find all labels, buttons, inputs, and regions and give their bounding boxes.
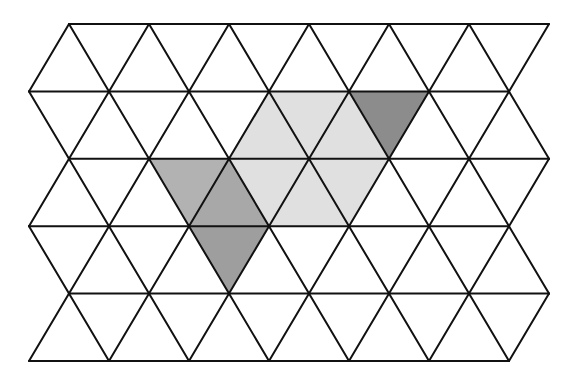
diagonal-line [189, 24, 229, 91]
diagonal-line [69, 24, 109, 91]
diagonal-line [389, 226, 429, 293]
diagonal-line [109, 91, 149, 158]
diagonal-line [309, 24, 349, 91]
diagonal-line [109, 294, 149, 361]
diagonal-line [69, 91, 109, 158]
diagonal-line [469, 91, 509, 158]
diagonal-line [269, 24, 309, 91]
diagonal-line [69, 159, 109, 226]
medium-triangle-left-lower [189, 226, 269, 293]
diagonal-line [349, 24, 389, 91]
diagonal-line [389, 294, 429, 361]
diagonal-line [29, 91, 69, 158]
grid-canvas [0, 0, 579, 381]
diagonal-line [229, 294, 269, 361]
diagonal-line [429, 226, 469, 293]
diagonal-line [29, 294, 69, 361]
diagonal-line [469, 294, 509, 361]
diagonal-line [229, 24, 269, 91]
diagonal-line [309, 294, 349, 361]
diagonal-line [29, 226, 69, 293]
diagonal-line [509, 226, 549, 293]
diagonal-line [189, 294, 229, 361]
diagonal-line [149, 24, 189, 91]
diagonal-line [429, 24, 469, 91]
diagonal-line [389, 24, 429, 91]
diagonal-line [389, 159, 429, 226]
diagonal-line [469, 24, 509, 91]
diagonal-line [69, 294, 109, 361]
diagonal-line [509, 294, 549, 361]
diagonal-line [509, 159, 549, 226]
diagonal-line [189, 91, 229, 158]
diagonal-line [429, 159, 469, 226]
diagonal-line [149, 91, 189, 158]
diagonal-line [469, 159, 509, 226]
diagonal-line [429, 91, 469, 158]
diagonal-line [349, 226, 389, 293]
diagonal-line [109, 159, 149, 226]
diagonal-line [309, 226, 349, 293]
diagonal-line [109, 24, 149, 91]
diagonal-line [109, 226, 149, 293]
diagonal-line [349, 294, 389, 361]
diagonal-line [429, 294, 469, 361]
diagonal-line [149, 294, 189, 361]
diagonal-line [509, 91, 549, 158]
diagonal-line [149, 226, 189, 293]
diagonal-line [29, 24, 69, 91]
triangular-grid-diagram [0, 0, 579, 381]
diagonal-line [469, 226, 509, 293]
diagonal-line [29, 159, 69, 226]
diagonal-line [269, 226, 309, 293]
diagonal-line [509, 24, 549, 91]
grid-lines [29, 24, 549, 361]
diagonal-line [69, 226, 109, 293]
diagonal-line [269, 294, 309, 361]
